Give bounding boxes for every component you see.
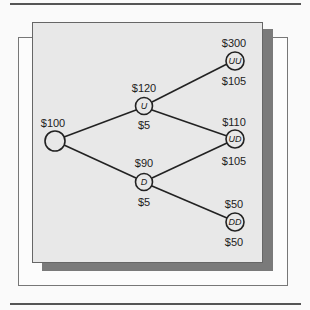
node-UD-label: UD (229, 134, 242, 144)
DD-payoff: $50 (225, 236, 243, 248)
node-D-label: D (141, 177, 148, 187)
U-payoff: $5 (138, 119, 150, 131)
DD-price: $50 (225, 198, 243, 210)
edge-root-D (64, 145, 136, 178)
UU-price: $300 (222, 37, 246, 49)
node-DD-label: DD (229, 217, 242, 227)
node-root-circle (45, 131, 65, 151)
edge-D-UD (152, 143, 227, 178)
edge-D-DD (152, 186, 227, 218)
UD-payoff: $105 (222, 155, 246, 167)
D-payoff: $5 (138, 196, 150, 208)
edge-U-UD (152, 110, 227, 136)
U-price: $120 (132, 82, 156, 94)
node-UU-label: UU (229, 56, 242, 66)
node-U-label: U (141, 101, 148, 111)
UU-payoff: $105 (222, 75, 246, 87)
tree-diagram (0, 0, 310, 310)
edge-root-U (64, 110, 136, 137)
root-price: $100 (41, 117, 65, 129)
bottom-rule (10, 303, 301, 305)
UD-price: $110 (222, 116, 246, 128)
edge-U-UU (152, 64, 227, 102)
D-price: $90 (135, 157, 153, 169)
